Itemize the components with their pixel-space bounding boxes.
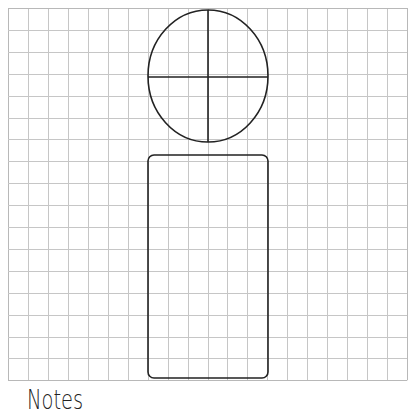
notes-heading: Notes (27, 386, 83, 412)
grid-paper-drawing (0, 0, 414, 412)
